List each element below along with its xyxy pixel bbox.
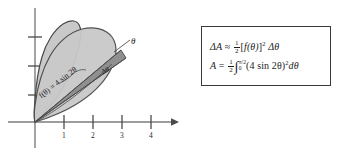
formula-box: ΔA ≈ 1 2 [f(θ)]2 Δθ A = 1 2 ∫π/20(4 sin … [201, 26, 331, 86]
formula-line-2-lhs: A [210, 60, 216, 71]
formula-line-2-coefficient: 1 2 [228, 59, 234, 74]
formula-line-1-differential: Δθ [268, 41, 279, 52]
formula-line-2: A = 1 2 ∫π/20(4 sin 2θ)2dθ [210, 55, 299, 74]
formula-lines: ΔA ≈ 1 2 [f(θ)]2 Δθ A = 1 2 ∫π/20(4 sin … [210, 36, 299, 74]
formula-line-1: ΔA ≈ 1 2 [f(θ)]2 Δθ [210, 36, 299, 55]
formula-line-2-differential: dθ [289, 60, 299, 71]
x-tick-label-2: 2 [91, 131, 95, 140]
formula-line-1-coefficient-denominator: 2 [234, 48, 240, 55]
formula-line-1-lhs: ΔA [210, 41, 222, 52]
theta-leader-line [114, 40, 130, 52]
integral-lower-limit: 0 [239, 66, 246, 72]
x-axis-arrowhead [171, 118, 179, 126]
x-tick-label-1: 1 [62, 131, 66, 140]
formula-line-1-exponent: 2 [262, 40, 265, 47]
x-tick-label-4: 4 [149, 131, 153, 140]
formula-line-2-integrand: 4 sin 2θ [250, 60, 282, 71]
formula-line-2-coefficient-denominator: 2 [228, 67, 234, 74]
theta-label: θ [131, 36, 135, 46]
formula-line-1-relation: ≈ [225, 41, 231, 52]
formula-line-1-coefficient: 1 2 [234, 40, 240, 55]
x-tick-label-3: 3 [120, 131, 124, 140]
formula-line-1-function: f(θ) [244, 41, 259, 52]
formula-line-2-relation: = [219, 60, 225, 71]
integral-limits: π/20 [239, 60, 246, 72]
